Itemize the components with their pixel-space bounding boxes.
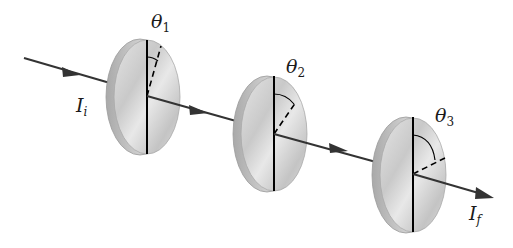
theta-1-label: θ1 xyxy=(151,12,170,34)
polarizer-3 xyxy=(372,117,446,233)
arrow-icon xyxy=(329,143,348,153)
arrow-icon xyxy=(62,67,80,77)
polarizer-diagram: Ii θ1 θ2 θ3 If xyxy=(0,0,513,248)
polarizer-1 xyxy=(106,39,180,155)
arrow-icon xyxy=(189,105,208,115)
theta-3-label: θ3 xyxy=(435,106,454,128)
arrow-icon xyxy=(475,187,494,199)
output-intensity-label: If xyxy=(469,204,481,226)
polarizer-2 xyxy=(233,76,307,192)
theta-2-label: θ2 xyxy=(286,57,305,79)
input-intensity-label: Ii xyxy=(76,96,87,118)
incoming-ray xyxy=(24,58,110,83)
